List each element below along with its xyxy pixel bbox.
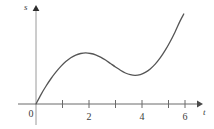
tick-label-origin: 0 bbox=[26, 109, 36, 119]
x-axis-label: t bbox=[203, 108, 206, 117]
y-axis-arrow-icon bbox=[33, 5, 40, 11]
tick-label-6: 6 bbox=[180, 112, 190, 122]
y-axis-label: s bbox=[24, 3, 28, 12]
tick-label-4: 4 bbox=[137, 112, 147, 122]
figure-container: s t 0 2 4 6 bbox=[0, 0, 214, 129]
function-curve bbox=[36, 14, 184, 104]
tick-label-2: 2 bbox=[84, 112, 94, 122]
